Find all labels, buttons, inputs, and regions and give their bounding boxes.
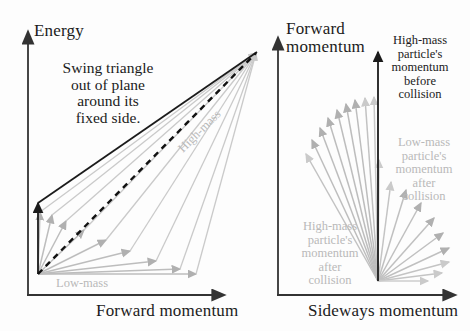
hm-before-line-1: High-mass [372,34,468,48]
right-x-axis-label: Sideways momentum [308,302,458,320]
swing-instruction-line-3: around its [28,93,188,110]
right-y-axis-label-line-1: Forward [286,20,365,38]
low-mass-label: Low-mass [56,277,108,291]
hm-after-line-2: particle's [285,234,375,248]
lm-after-line-1: Low-mass [378,136,470,150]
swing-instruction-line-1: Swing triangle [28,60,188,77]
hm-before-line-3: momentum [372,61,468,75]
figure-root: Energy Swing triangle out of plane aroun… [0,0,470,331]
low-mass-after-collision-label: Low-mass particle's momentum after colli… [378,136,470,204]
hm-after-line-4: after [285,261,375,275]
lm-after-line-4: after [378,177,470,191]
low-mass-vector [38,240,106,274]
swing-instruction-text: Swing triangle out of plane around its f… [28,60,188,127]
lm-after-line-5: collision [378,190,470,204]
low-mass-after-vector [378,218,434,281]
high-mass-vector [180,53,256,269]
hm-before-line-2: particle's [372,48,468,62]
swing-instruction-line-2: out of plane [28,77,188,94]
low-mass-after-vector [378,203,421,281]
hm-before-line-5: collision [372,88,468,102]
hm-after-line-3: momentum [285,247,375,261]
hm-after-line-5: collision [285,274,375,288]
right-y-axis-label: Forward momentum [286,20,365,57]
low-mass-vector [38,221,66,274]
low-mass-after-vector [378,190,406,281]
right-y-axis-label-line-2: momentum [286,38,365,56]
lm-after-line-2: particle's [378,150,470,164]
high-mass-after-collision-label: High-mass particle's momentum after coll… [285,220,375,288]
hm-after-line-1: High-mass [285,220,375,234]
lm-after-line-3: momentum [378,163,470,177]
hm-before-line-4: before [372,75,468,89]
left-x-axis-label: Forward momentum [96,302,239,320]
high-mass-vector [196,53,256,274]
high-mass-before-collision-label: High-mass particle's momentum before col… [372,34,468,102]
low-mass-vector [38,230,84,274]
swing-instruction-line-4: fixed side. [28,110,188,127]
left-y-axis-label: Energy [34,22,84,40]
